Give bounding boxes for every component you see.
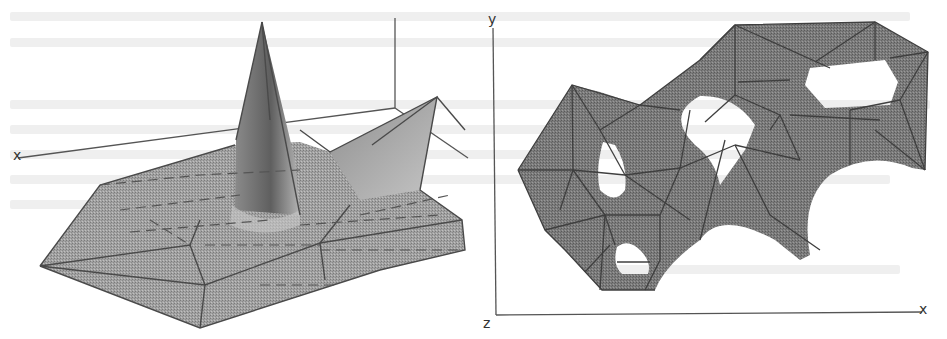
figure: x y z x: [0, 0, 947, 339]
right-mesh-body: [518, 22, 928, 290]
right-z-axis-label: z: [483, 316, 490, 330]
right-mesh-plot: [493, 22, 928, 315]
left-x-axis-label: x: [13, 148, 21, 162]
right-x-axis-label: x: [919, 302, 927, 316]
left-surface-plot: [18, 18, 468, 328]
right-y-axis-label: y: [488, 12, 496, 26]
figure-canvas: [0, 0, 947, 339]
